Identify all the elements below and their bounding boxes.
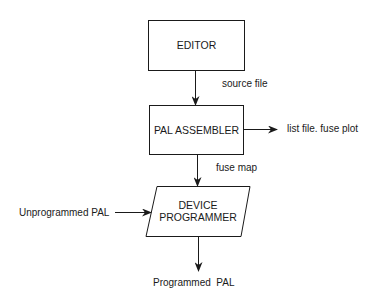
programmed-pal-label: Programmed PAL (153, 277, 235, 289)
pal-assembler-label: PAL ASSEMBLER (149, 124, 244, 136)
device-programmer-label-line2: PROGRAMMER (148, 211, 248, 223)
editor-label: EDITOR (148, 39, 245, 51)
list-file-fuse-plot-label: list file. fuse plot (287, 123, 358, 135)
unprogrammed-pal-label: Unprogrammed PAL (19, 207, 109, 219)
fuse-map-label: fuse map (216, 162, 257, 174)
source-file-label: source file (222, 78, 268, 90)
device-programmer-label-line1: DEVICE (148, 199, 248, 211)
